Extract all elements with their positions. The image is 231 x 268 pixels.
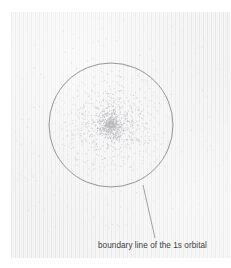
page-bottom-margin: [0, 258, 231, 268]
outer-electron-dots: [15, 14, 227, 231]
leader-line: [143, 185, 155, 238]
orbital-diagram-svg: [0, 0, 231, 268]
nucleus-marker: [109, 123, 112, 126]
orbital-figure: boundary line of the 1s orbital: [0, 0, 231, 268]
boundary-line-caption: boundary line of the 1s orbital: [98, 241, 207, 251]
